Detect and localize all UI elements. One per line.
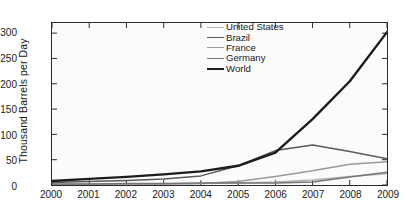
y-axis-title: Thousand Barrels per Day (17, 16, 29, 186)
legend-item-label: United States (226, 22, 284, 32)
y-axis-tick-label: 50 (0, 155, 17, 166)
legend-item: World (207, 64, 284, 74)
legend-item-label: World (226, 64, 251, 74)
legend-item-label: Germany (226, 53, 265, 63)
y-axis-tick-label: 150 (0, 104, 17, 115)
legend-color-swatch (207, 47, 224, 48)
legend-color-swatch (207, 68, 224, 70)
legend-color-swatch (207, 37, 224, 38)
y-axis-tick-label: 250 (0, 52, 17, 63)
chart-legend: United StatesBrazilFranceGermanyWorld (207, 22, 284, 74)
legend-color-swatch (207, 27, 224, 28)
y-axis-tick-label: 100 (0, 129, 17, 140)
y-axis-tick-label: 300 (0, 27, 17, 38)
legend-item: Germany (207, 53, 284, 63)
legend-color-swatch (207, 58, 224, 59)
x-axis-tick-label: 2009 (365, 189, 408, 200)
y-axis-tick-label: 200 (0, 78, 17, 89)
y-axis-tick-label: 0 (0, 181, 17, 192)
chart-figure: Thousand Barrels per Day 050100150200250… (0, 0, 408, 214)
legend-item: United States (207, 22, 284, 32)
